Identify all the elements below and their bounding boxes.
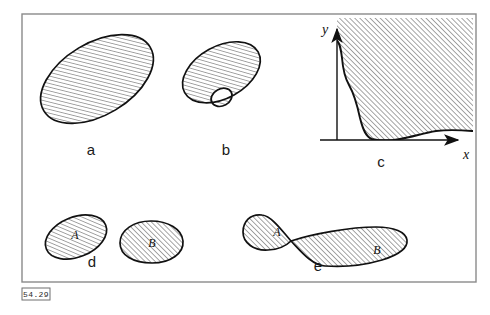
- figure-container: a b y x c A B: [0, 0, 490, 315]
- panel-d-label: d: [88, 253, 96, 270]
- panel-c-x-axis-label: x: [462, 147, 470, 162]
- panel-a-label: a: [87, 141, 96, 158]
- panel-e-label: e: [314, 257, 322, 274]
- panel-d-region-a-label: A: [70, 228, 79, 242]
- panel-e-region: [243, 215, 407, 267]
- panel-e: A B e: [243, 215, 407, 274]
- panel-c-y-axis-label: y: [320, 22, 329, 37]
- panel-d: A B d: [39, 206, 183, 270]
- panel-c: y x c: [320, 16, 474, 170]
- panel-a: a: [25, 16, 168, 158]
- figure-number-label: 54.29: [23, 290, 49, 299]
- panel-b: b: [172, 29, 273, 158]
- figure-number-box: 54.29: [22, 288, 50, 300]
- panel-e-region-b-label: B: [373, 243, 381, 257]
- panel-b-label: b: [222, 141, 230, 158]
- panel-a-region: [25, 16, 168, 142]
- panel-c-region: [336, 16, 474, 141]
- figure-canvas: a b y x c A B: [0, 0, 490, 315]
- panel-e-region-a-label: A: [272, 225, 281, 239]
- panel-b-region: [172, 29, 273, 119]
- panel-c-label: c: [377, 153, 385, 170]
- panel-d-region-b-label: B: [148, 236, 156, 250]
